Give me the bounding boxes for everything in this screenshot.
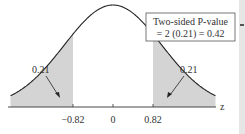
p-value-line-1: Two-sided P-value: [153, 16, 229, 27]
page-edge-mark: [240, 24, 244, 26]
x-tick-label: 0: [111, 114, 116, 125]
x-tick-label: −0.82: [61, 114, 84, 125]
p-value-line-2: = 2 (0.21) = 0.42: [157, 28, 225, 40]
left-tail-label: 0.21: [32, 64, 50, 75]
axis-label-z: z: [220, 101, 225, 112]
right-tail-label: 0.21: [180, 64, 198, 75]
normal-curve-chart: z −0.8200.82 0.21 0.21 Two-sided P-value…: [0, 0, 245, 134]
page-edge-strip: [239, 0, 245, 134]
x-tick-label: 0.82: [144, 114, 162, 125]
